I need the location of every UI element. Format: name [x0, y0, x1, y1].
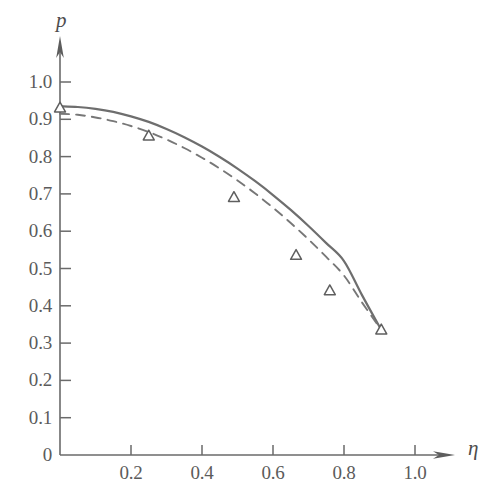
- chart-background: [0, 0, 500, 502]
- x-tick-label: 0.6: [243, 462, 303, 484]
- chart-figure: 00.10.20.30.40.50.60.70.80.91.00.20.40.6…: [0, 0, 500, 502]
- y-tick-label: 0.9: [6, 108, 52, 130]
- x-tick-label: 0.8: [314, 462, 374, 484]
- y-axis-title: p: [56, 8, 67, 33]
- y-tick-label: 0.2: [6, 369, 52, 391]
- y-tick-label: 0.6: [6, 220, 52, 242]
- x-tick-label: 0.4: [172, 462, 232, 484]
- x-tick-label: 0.2: [101, 462, 161, 484]
- x-tick-label: 1.0: [385, 462, 445, 484]
- x-axis-title: η: [468, 436, 478, 461]
- y-tick-label: 0.8: [6, 146, 52, 168]
- y-tick-label: 0: [6, 444, 52, 466]
- plot-canvas: [0, 0, 500, 502]
- y-tick-label: 0.7: [6, 183, 52, 205]
- y-tick-label: 0.4: [6, 295, 52, 317]
- y-tick-label: 0.3: [6, 332, 52, 354]
- y-tick-label: 0.1: [6, 407, 52, 429]
- y-tick-label: 0.5: [6, 258, 52, 280]
- y-tick-label: 1.0: [6, 71, 52, 93]
